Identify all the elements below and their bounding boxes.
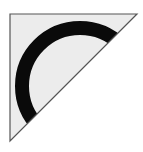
triangle-tile: [0, 0, 143, 152]
